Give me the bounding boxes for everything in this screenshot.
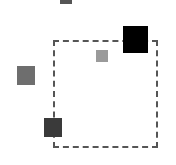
square-left-gray[interactable] — [17, 66, 35, 85]
square-large-black[interactable] — [123, 26, 148, 53]
square-bottom-dark[interactable] — [44, 118, 62, 137]
diagram-canvas — [0, 0, 176, 165]
square-top-clipped[interactable] — [60, 0, 72, 4]
square-small-light[interactable] — [96, 50, 108, 62]
